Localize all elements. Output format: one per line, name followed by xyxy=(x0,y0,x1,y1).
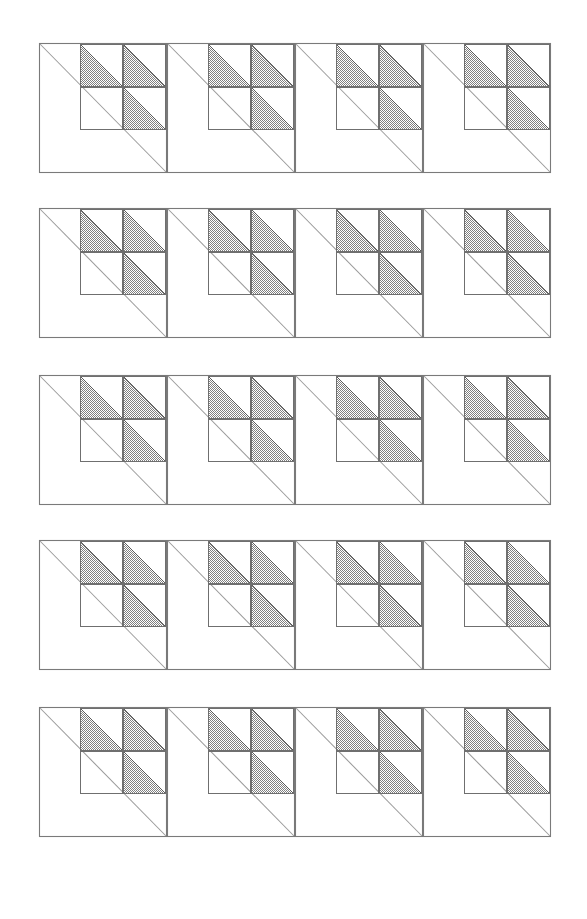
block-cell[interactable] xyxy=(168,541,295,670)
block-cell[interactable] xyxy=(168,209,295,338)
block-cell[interactable] xyxy=(40,209,167,338)
pattern-row xyxy=(40,541,551,670)
pattern-row xyxy=(40,209,551,338)
block-cell[interactable] xyxy=(424,209,551,338)
block-cell[interactable] xyxy=(424,376,551,505)
block-cell[interactable] xyxy=(296,708,423,837)
block-cell[interactable] xyxy=(296,209,423,338)
block-cell[interactable] xyxy=(424,541,551,670)
block-cell[interactable] xyxy=(168,376,295,505)
block-cell[interactable] xyxy=(40,376,167,505)
pattern-row xyxy=(40,708,551,837)
pattern-row xyxy=(40,376,551,505)
block-cell[interactable] xyxy=(40,541,167,670)
block-cell[interactable] xyxy=(40,708,167,837)
block-cell[interactable] xyxy=(296,376,423,505)
block-cell[interactable] xyxy=(296,541,423,670)
block-cell[interactable] xyxy=(40,44,167,173)
block-cell[interactable] xyxy=(424,44,551,173)
block-cell[interactable] xyxy=(424,708,551,837)
pattern-row xyxy=(40,44,551,173)
quilt-block-grid xyxy=(0,0,587,919)
pattern-page xyxy=(0,0,587,919)
block-cell[interactable] xyxy=(168,708,295,837)
block-cell[interactable] xyxy=(168,44,295,173)
block-cell[interactable] xyxy=(296,44,423,173)
